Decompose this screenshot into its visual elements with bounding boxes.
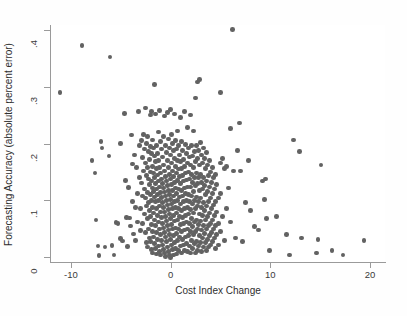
y-tick [44,200,50,201]
scatter-point [267,248,272,253]
scatter-point [182,109,187,114]
scatter-point [246,158,251,163]
scatter-point [188,251,193,256]
scatter-point [208,170,213,175]
scatter-point [284,232,289,237]
scatter-point [128,224,133,229]
y-tick [44,30,50,31]
scatter-point [137,143,142,148]
scatter-point [138,206,143,211]
scatter-point [197,77,202,82]
scatter-point [99,139,104,144]
scatter-point [210,165,215,170]
scatter-point [202,183,207,188]
scatter-point [263,177,268,182]
scatter-point [96,244,101,249]
scatter-point [132,153,137,158]
scatter-point [140,155,145,160]
scatter-point [238,169,243,174]
scatter-point [291,138,296,143]
scatter-point [154,143,159,148]
x-tick [171,263,172,268]
scatter-point [248,208,253,213]
scatter-plot-figure: 0.1.2.3.4 -1001020 Forecasting Accuracy … [0,0,407,316]
x-tick-label: 10 [250,269,290,280]
scatter-point [316,237,321,242]
scatter-point [137,175,142,180]
scatter-point [157,108,162,113]
scatter-point [173,138,178,143]
scatter-point [160,155,165,160]
scatter-point [139,181,144,186]
scatter-point [126,185,131,190]
x-axis-title: Cost Index Change [51,285,385,296]
scatter-point [226,186,231,191]
x-tick-label: -10 [51,269,91,280]
scatter-point [193,96,198,101]
x-tick [370,263,371,268]
scatter-point [210,191,215,196]
scatter-point [200,161,205,166]
scatter-point [140,221,145,226]
scatter-point [233,236,238,241]
scatter-point [136,109,141,114]
scatter-point [262,197,267,202]
scatter-point [218,191,223,196]
scatter-point [207,185,212,190]
scatter-point [80,43,85,48]
scatter-point [107,154,112,159]
scatter-point [207,211,212,216]
scatter-point [200,213,205,218]
scatter-point [189,143,194,148]
scatter-point [135,220,140,225]
scatter-point [274,214,279,219]
scatter-point [110,243,115,248]
scatter-point [220,214,225,219]
scatter-point [138,228,143,233]
scatter-point [158,139,163,144]
scatter-point [191,189,196,194]
scatter-point [108,55,113,60]
scatter-point [214,182,219,187]
y-tick-label: .3 [28,81,39,121]
scatter-point [319,163,324,168]
y-tick-label: .1 [28,194,39,234]
scatter-point [168,107,173,112]
scatter-point [116,221,121,226]
y-tick [44,257,50,258]
scatter-point [145,134,150,139]
scatter-point [213,172,218,177]
x-tick [71,263,72,268]
scatter-point [209,180,214,185]
scatter-point [156,130,161,135]
x-axis-line [50,262,386,263]
scatter-point [210,218,215,223]
scatter-point [218,161,223,166]
scatter-point [58,90,63,95]
scatter-point [208,196,213,201]
scatter-point [131,232,136,237]
scatter-point [156,158,161,163]
scatter-point [190,154,195,159]
scatter-point [161,134,166,139]
scatter-point [130,199,135,204]
scatter-point [224,206,229,211]
scatter-point [202,156,207,161]
scatter-point [135,191,140,196]
scatter-point [112,253,117,258]
scatter-point [175,129,180,134]
x-tick [270,263,271,268]
scatter-point [240,239,245,244]
scatter-point [123,178,128,183]
scatter-point [204,179,209,184]
scatter-point [198,140,203,145]
scatter-point [172,112,177,117]
scatter-point [152,82,157,87]
scatter-point [133,205,138,210]
scatter-point [161,163,166,168]
scatter-point [188,113,193,118]
scatter-point [218,90,223,95]
scatter-point [205,189,210,194]
y-tick [44,87,50,88]
scatter-point [103,245,108,250]
